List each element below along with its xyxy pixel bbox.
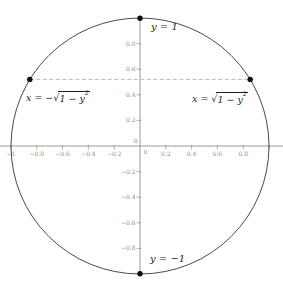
y-tick-label: −0.4 <box>121 193 136 200</box>
point-bottom <box>137 271 142 276</box>
x-tick-label: −0.6 <box>55 150 70 157</box>
y-tick-label: 0.8 <box>126 40 136 47</box>
label-x-equals-sqrt: x = √1 − y2 <box>192 94 248 104</box>
y-tick-label: 0.6 <box>126 65 136 72</box>
label-x-equals-minus-sqrt: x = −√1 − y2 <box>26 93 90 103</box>
y-tick-label: −0.8 <box>121 244 136 251</box>
radicand-text: 1 − y <box>59 92 84 103</box>
point-left <box>27 77 32 82</box>
x-tick-label: 0.2 <box>161 150 171 157</box>
eq-left-prefix: x = − <box>26 92 53 103</box>
eq-left-radicand: 1 − y2 <box>58 91 89 104</box>
x-tick-label: 0.4 <box>187 150 197 157</box>
x-tick-label: 0.8 <box>238 150 248 157</box>
y-tick-label: −0.2 <box>121 168 136 175</box>
x-tick-label: −0.4 <box>81 150 96 157</box>
eq-right-prefix: x = <box>192 93 211 104</box>
y-tick-label: 0.2 <box>126 116 136 123</box>
origin-x-zero-label: 0 <box>144 148 148 155</box>
unit-circle-plot: −1−0.8−0.6−0.4−0.20.20.40.60.80.80.60.40… <box>0 0 283 287</box>
label-y-equals-minus-1: y = −1 <box>150 254 185 264</box>
point-right <box>248 77 253 82</box>
radicand-text: 1 − y <box>217 93 242 104</box>
x-tick-label: 0.6 <box>213 150 223 157</box>
axis-ticks: −1−0.8−0.6−0.4−0.20.20.40.60.80.80.60.40… <box>7 40 269 252</box>
point-top <box>137 16 142 21</box>
plot-canvas: −1−0.8−0.6−0.4−0.20.20.40.60.80.80.60.40… <box>0 0 283 287</box>
radicand-exponent: 2 <box>85 89 89 96</box>
x-tick-label: −0.2 <box>107 150 122 157</box>
y-tick-label: −0.6 <box>121 219 136 226</box>
y-tick-label: 0.4 <box>126 91 136 98</box>
radicand-exponent: 2 <box>243 90 247 97</box>
origin-y-zero-label: 0 <box>134 137 138 144</box>
x-tick-label: −0.8 <box>30 150 45 157</box>
eq-right-radicand: 1 − y2 <box>216 92 247 105</box>
label-y-equals-1: y = 1 <box>151 22 178 32</box>
